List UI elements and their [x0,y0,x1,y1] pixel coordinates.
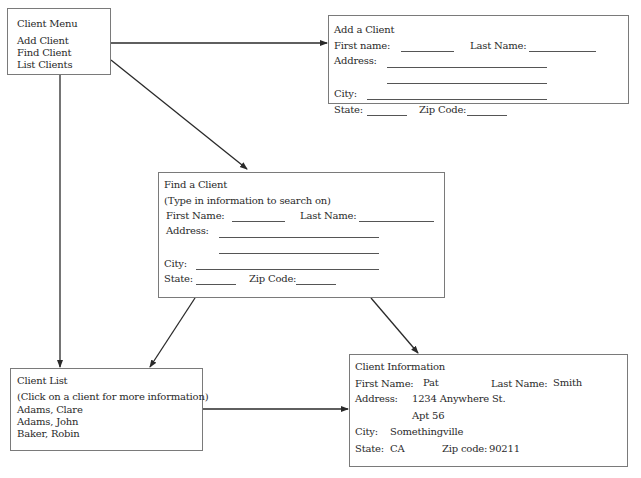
info-address-line1: 1234 Anywhere St. [412,393,505,405]
menu-item-list-clients[interactable]: List Clients [17,59,72,71]
client-info-title: Client Information [355,361,445,373]
info-first-name-label: First Name: [355,378,414,390]
find-last-name-label: Last Name: [300,210,356,222]
menu-item-find-client[interactable]: Find Client [17,47,71,59]
add-zip-field[interactable] [467,115,507,116]
find-client-title: Find a Client [164,179,227,191]
add-city-label: City: [334,88,357,100]
find-city-field[interactable] [196,269,379,270]
info-last-name-value: Smith [553,377,582,389]
client-list-box: Client List (Click on a client for more … [10,368,203,451]
find-first-name-field[interactable] [232,221,285,222]
find-address-line2-field[interactable] [219,253,379,254]
client-list-subtitle: (Click on a client for more information) [17,391,208,403]
arrow-find-to-info [371,298,418,353]
client-list-item[interactable]: Adams, John [17,416,78,428]
find-last-name-field[interactable] [359,221,434,222]
client-menu-box: Client Menu Add Client Find Client List … [7,8,111,75]
info-last-name-label: Last Name: [491,378,547,390]
client-menu-title: Client Menu [17,18,77,30]
client-list-item[interactable]: Adams, Clare [17,404,83,416]
add-first-name-field[interactable] [401,51,454,52]
add-zip-label: Zip Code: [419,104,466,116]
find-first-name-label: First Name: [166,210,225,222]
info-state-label: State: [355,443,384,455]
add-first-name-label: First name: [334,40,390,52]
find-state-field[interactable] [196,284,236,285]
find-state-label: State: [164,273,193,285]
add-state-label: State: [334,104,363,116]
find-address-label: Address: [166,225,209,237]
info-address-line2: Apt 56 [412,410,444,422]
client-info-box: Client Information First Name: Pat Last … [349,354,628,467]
info-first-name-value: Pat [423,377,439,389]
add-address-line2-field[interactable] [387,83,547,84]
arrow-menu-to-find [111,60,247,169]
add-last-name-field[interactable] [529,51,596,52]
add-state-field[interactable] [367,115,407,116]
add-city-field[interactable] [367,99,547,100]
find-city-label: City: [164,258,187,270]
add-client-title: Add a Client [334,24,394,36]
info-state-value: CA [390,443,404,455]
arrow-find-to-list [150,298,195,367]
client-list-item[interactable]: Baker, Robin [17,428,80,440]
info-address-label: Address: [355,393,398,405]
find-client-box: Find a Client (Type in information to se… [158,172,445,298]
find-zip-field[interactable] [296,284,336,285]
info-zip-label: Zip code: [442,443,487,455]
info-zip-value: 90211 [489,443,520,455]
find-zip-label: Zip Code: [249,273,296,285]
add-client-box: Add a Client First name: Last Name: Addr… [328,15,629,104]
add-last-name-label: Last Name: [470,40,526,52]
client-list-title: Client List [17,375,67,387]
find-address-line1-field[interactable] [219,237,379,238]
info-city-value: Somethingville [390,426,463,438]
find-client-subtitle: (Type in information to search on) [164,195,331,207]
info-city-label: City: [355,426,378,438]
menu-item-add-client[interactable]: Add Client [17,35,69,47]
add-address-label: Address: [334,55,377,67]
add-address-line1-field[interactable] [387,67,547,68]
